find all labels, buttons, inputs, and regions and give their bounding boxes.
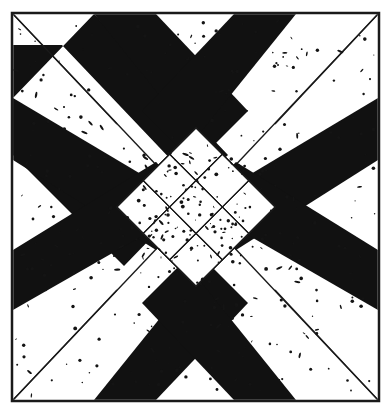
speckle-dot bbox=[170, 196, 172, 198]
speckle-dot bbox=[63, 106, 65, 108]
speckle-dot bbox=[45, 289, 47, 291]
speckle-dot bbox=[228, 167, 230, 169]
speckle-dot bbox=[242, 169, 245, 172]
speckle-dot bbox=[344, 247, 347, 250]
speckle-dot bbox=[138, 313, 141, 316]
speckle-dot bbox=[372, 128, 375, 131]
speckle-dot bbox=[123, 148, 125, 150]
speckle-dot bbox=[50, 264, 53, 267]
speckle-dot bbox=[135, 238, 137, 240]
speckle-dot bbox=[313, 221, 317, 225]
speckle-dot bbox=[70, 94, 73, 97]
speckle-dot bbox=[120, 228, 122, 230]
speckle-dot bbox=[249, 383, 252, 386]
speckle-dot bbox=[255, 52, 257, 54]
speckle-dot bbox=[232, 238, 233, 239]
speckle-dot bbox=[52, 215, 55, 218]
speckle-dot bbox=[165, 214, 167, 216]
speckle-dot bbox=[63, 127, 67, 131]
speckle-dot bbox=[204, 56, 206, 58]
speckle-dot bbox=[210, 223, 211, 224]
speckle-dot bbox=[314, 194, 316, 196]
speckle-dot bbox=[221, 244, 224, 247]
speckle-dot bbox=[312, 316, 313, 317]
speckle-dot bbox=[51, 379, 53, 381]
speckle-dot bbox=[183, 197, 185, 199]
speckle-dot bbox=[359, 35, 361, 37]
speckle-dot bbox=[359, 304, 363, 308]
speckle-dot bbox=[352, 116, 354, 118]
speckle-dot bbox=[214, 172, 218, 176]
speckle-dot bbox=[40, 78, 43, 81]
speckle-dot bbox=[142, 188, 145, 191]
speckle-dot bbox=[243, 165, 246, 168]
speckle-dot bbox=[29, 154, 31, 156]
speckle-dot bbox=[179, 366, 181, 368]
speckle-dot bbox=[365, 162, 366, 163]
speckle-dot bbox=[30, 249, 31, 250]
speckle-dot bbox=[283, 304, 286, 307]
speckle-dot bbox=[101, 171, 103, 173]
speckle-dot bbox=[218, 34, 220, 36]
speckle-dot bbox=[74, 95, 76, 97]
speckle-dot bbox=[98, 338, 101, 341]
speckle-dot bbox=[161, 256, 162, 258]
speckle-dot bbox=[237, 164, 241, 168]
speckle-dot bbox=[285, 195, 288, 198]
speckle-dot bbox=[231, 223, 234, 226]
speckle-dot bbox=[373, 54, 374, 55]
speckle-dot bbox=[228, 325, 230, 327]
speckle-dot bbox=[235, 222, 237, 224]
speckle-dot bbox=[91, 34, 93, 36]
speckle-dot bbox=[143, 204, 145, 206]
speckle-dot bbox=[212, 213, 214, 215]
speckle-dot bbox=[351, 299, 355, 303]
speckle-dot bbox=[16, 364, 18, 366]
speckle-dot bbox=[181, 321, 184, 324]
speckle-dot bbox=[198, 213, 201, 216]
speckle-dot bbox=[242, 356, 244, 358]
speckle-dot bbox=[298, 133, 299, 134]
speckle-dot bbox=[363, 37, 367, 41]
speckle-dot bbox=[253, 140, 254, 141]
speckle-dot bbox=[102, 269, 103, 270]
speckle-dot bbox=[197, 259, 199, 261]
speckle-dot bbox=[218, 261, 220, 263]
speckle-dot bbox=[296, 236, 299, 239]
speckle-dot bbox=[241, 236, 243, 238]
speckle-dot bbox=[73, 327, 77, 331]
speckle-dot bbox=[173, 267, 175, 269]
speckle-dot bbox=[78, 359, 81, 362]
speckle-dot bbox=[175, 369, 179, 373]
speckle-dot bbox=[174, 172, 178, 176]
speckle-dot bbox=[252, 246, 254, 248]
speckle-dot bbox=[148, 235, 151, 238]
speckle-dot bbox=[234, 211, 237, 214]
speckle-dot bbox=[87, 88, 90, 91]
speckle-dot bbox=[160, 369, 164, 373]
speckle-dot bbox=[198, 181, 200, 183]
speckle-dot bbox=[59, 60, 60, 61]
speckle-dot bbox=[236, 70, 239, 73]
speckle-dot bbox=[203, 176, 206, 179]
speckle-dot bbox=[35, 61, 37, 63]
speckle-dot bbox=[210, 119, 214, 123]
speckle-dot bbox=[171, 235, 174, 238]
speckle-dot bbox=[362, 297, 365, 300]
speckle-dot bbox=[230, 226, 232, 228]
speckle-dot bbox=[215, 91, 217, 93]
speckle-dot bbox=[187, 213, 190, 216]
speckle-dot bbox=[147, 238, 149, 240]
speckle-dot bbox=[26, 267, 29, 270]
speckle-dot bbox=[229, 246, 233, 250]
speckle-dot bbox=[195, 179, 198, 182]
speckle-dot bbox=[280, 298, 283, 301]
speckle-dot bbox=[230, 157, 234, 161]
speckle-dot bbox=[264, 234, 267, 237]
speckle-dot bbox=[169, 43, 172, 46]
speckle-dot bbox=[275, 62, 277, 64]
speckle-dot bbox=[42, 74, 44, 76]
speckle-dot bbox=[131, 372, 132, 373]
speckle-dot bbox=[160, 193, 163, 196]
speckle-dot bbox=[59, 232, 60, 233]
